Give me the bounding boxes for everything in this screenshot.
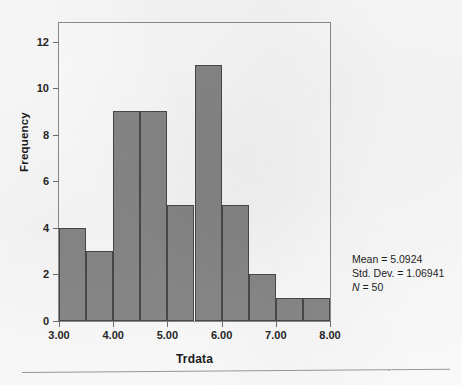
histogram-bar <box>86 251 113 321</box>
stat-mean: Mean = 5.0924 <box>352 252 444 266</box>
x-axis-tick: 4.00 <box>113 321 114 327</box>
histogram-bar <box>249 274 276 321</box>
x-axis-tick-label: 6.00 <box>211 329 232 341</box>
y-axis-tick: 6 <box>53 181 59 182</box>
x-axis-title: Trdata <box>58 352 331 366</box>
histogram-bar <box>222 205 249 321</box>
x-axis-tick: 3.00 <box>59 321 60 327</box>
stat-n-value: = 50 <box>360 281 384 293</box>
x-axis-tick-label: 7.00 <box>265 329 286 341</box>
y-axis-tick-label: 6 <box>43 175 49 187</box>
y-axis-tick: 10 <box>53 88 59 89</box>
histogram-bar <box>140 111 167 321</box>
histogram-bar <box>167 205 194 321</box>
x-axis-tick: 5.00 <box>167 321 168 327</box>
plot-area: 0246810123.004.005.006.007.008.00 <box>59 23 330 321</box>
x-axis-tick-label: 3.00 <box>48 329 69 341</box>
y-axis-tick: 4 <box>53 228 59 229</box>
stat-std-dev: Std. Dev. = 1.06941 <box>352 266 444 280</box>
y-axis-tick-label: 0 <box>43 315 49 327</box>
y-axis-tick-label: 10 <box>37 82 49 94</box>
scanned-page: Frequency 0246810123.004.005.006.007.008… <box>0 0 462 385</box>
y-axis-tick-label: 8 <box>43 129 49 141</box>
histogram-bar <box>59 228 86 321</box>
histogram-bar <box>276 298 303 321</box>
statistics-annotation: Mean = 5.0924 Std. Dev. = 1.06941 N = 50 <box>352 252 444 294</box>
x-axis-tick: 7.00 <box>276 321 277 327</box>
plot-frame: 0246810123.004.005.006.007.008.00 <box>58 22 331 322</box>
x-axis-tick-label: 8.00 <box>319 329 340 341</box>
histogram-bar <box>195 65 222 321</box>
x-axis-tick: 8.00 <box>330 321 331 327</box>
y-axis-tick-label: 12 <box>37 36 49 48</box>
y-axis-tick: 12 <box>53 42 59 43</box>
y-axis-tick-label: 4 <box>43 222 49 234</box>
stat-n: N = 50 <box>352 280 444 294</box>
x-axis-tick: 6.00 <box>222 321 223 327</box>
y-axis-title: Frequency <box>18 112 30 172</box>
x-axis-tick-label: 5.00 <box>157 329 178 341</box>
histogram-figure: Frequency 0246810123.004.005.006.007.008… <box>0 0 462 385</box>
histogram-bar <box>113 111 140 321</box>
histogram-bar <box>303 298 330 321</box>
x-axis-tick-label: 4.00 <box>102 329 123 341</box>
y-axis-tick-label: 2 <box>43 268 49 280</box>
y-axis-tick: 8 <box>53 135 59 136</box>
stat-n-symbol: N <box>352 281 360 293</box>
scan-speck <box>388 369 390 371</box>
y-axis-tick: 2 <box>53 274 59 275</box>
